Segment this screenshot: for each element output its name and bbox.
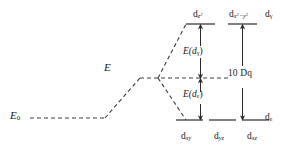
label-ten-dq: 10 Dq bbox=[228, 69, 252, 79]
label-dxy: dxy bbox=[181, 132, 191, 142]
label-dxz: dxz bbox=[247, 132, 257, 142]
splitting-connector-lower bbox=[158, 78, 186, 120]
label-barycenter-energy: E bbox=[104, 62, 111, 73]
free-ion-to-barycenter-connector bbox=[105, 78, 140, 118]
label-free-ion-energy: E0 bbox=[10, 110, 20, 122]
splitting-connector-upper bbox=[158, 24, 186, 78]
label-dyz: dyz bbox=[214, 132, 224, 142]
label-dx2y2: dx2−y2 bbox=[229, 10, 248, 20]
label-dz2: dz2 bbox=[193, 10, 202, 20]
label-d-epsilon: dε bbox=[265, 113, 272, 123]
crystal-field-splitting-diagram: E0 E dz2 dx2−y2 dγ dε E(dγ) E(dε) 10 Dq … bbox=[0, 0, 283, 154]
label-d-gamma: dγ bbox=[265, 10, 273, 20]
label-energy-lower-set: E(dε) bbox=[183, 90, 203, 100]
label-energy-upper-set: E(dγ) bbox=[183, 47, 203, 57]
